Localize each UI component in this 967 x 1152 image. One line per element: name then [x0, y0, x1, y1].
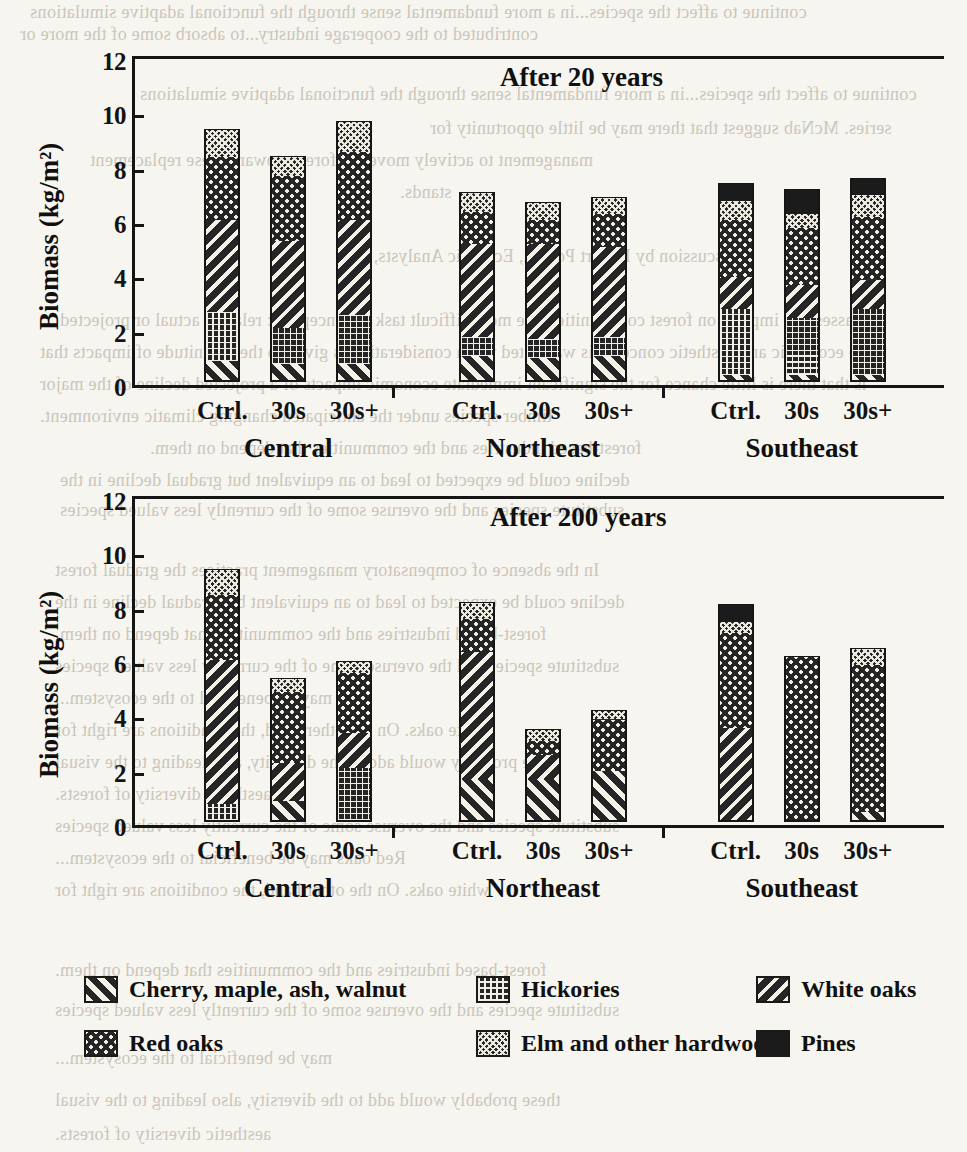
bar-segment-elm [593, 198, 625, 214]
group-label-central: Central [168, 873, 408, 904]
bar-segment-red-oaks [852, 665, 884, 812]
chart200-ytick-10: 10 [102, 542, 135, 570]
bar-central-30s [270, 156, 306, 382]
bar-segment-elm [527, 203, 559, 219]
bar-segment-red-oaks [272, 176, 304, 241]
legend-label-cherry: Cherry, maple, ash, walnut [129, 976, 406, 1003]
group-separator-tick [662, 828, 665, 838]
bar-segment-red-oaks [786, 657, 818, 820]
bar-segment-white-oaks [206, 660, 238, 804]
chart20-ytickmark-4 [135, 278, 144, 281]
bar-segment-white-oaks [527, 244, 559, 339]
xtick-label-northeast-2: 30s+ [564, 837, 654, 865]
bar-segment-hickories [206, 312, 238, 361]
bar-segment-hickories [720, 309, 752, 374]
bar-segment-cherry [593, 356, 625, 380]
chart-after-200-years: Biomass (kg/m²) After 200 years 02468101… [0, 440, 967, 880]
bar-segment-red-oaks [852, 217, 884, 279]
chart20-ytickmark-10 [135, 115, 144, 118]
chart200-ytick-4: 4 [114, 705, 135, 733]
bar-segment-hickories [527, 339, 559, 358]
bar-segment-cherry [206, 361, 238, 380]
legend-label-white-oaks: White oaks [801, 976, 916, 1003]
chart20-ytickmark-2 [135, 333, 144, 336]
bar-southeast-30s [784, 656, 820, 822]
bar-central-30s [270, 678, 306, 822]
bar-segment-red-oaks [720, 220, 752, 277]
bar-northeast-30s+ [591, 710, 627, 822]
bar-segment-hickories [461, 337, 493, 356]
legend-item-elm: Elm and other hardwoods [476, 1030, 788, 1057]
bar-southeast-ctrl [718, 183, 754, 382]
chart-200-plot-area: 024681012Ctrl.30s30s+CentralCtrl.30s30s+… [132, 496, 944, 828]
group-separator-tick [392, 388, 395, 398]
bar-segment-white-oaks [461, 244, 493, 336]
bar-segment-white-oaks [338, 220, 370, 315]
bar-segment-elm [461, 603, 493, 619]
bar-segment-cherry [593, 771, 625, 820]
figure-legend: Cherry, maple, ash, walnut Hickories Whi… [84, 968, 936, 1080]
bar-segment-red-oaks [593, 214, 625, 247]
bar-segment-red-oaks [461, 212, 493, 245]
bar-segment-cherry [786, 375, 818, 380]
bar-segment-red-oaks [206, 157, 238, 219]
bar-segment-white-oaks [527, 755, 559, 779]
legend-label-red-oaks: Red oaks [129, 1030, 223, 1057]
bar-segment-hickories [338, 768, 370, 820]
bar-segment-elm [272, 679, 304, 693]
bar-segment-red-oaks [338, 673, 370, 733]
legend-item-red-oaks: Red oaks [84, 1030, 223, 1057]
chart200-ytickmark-10 [135, 555, 144, 558]
bar-segment-white-oaks [593, 247, 625, 337]
bar-segment-elm [593, 711, 625, 719]
bar-central-ctrl [204, 569, 240, 822]
legend-swatch-white-oaks-icon [756, 976, 790, 1003]
chart-200-y-axis-label: Biomass (kg/m²) [34, 591, 65, 778]
bar-northeast-30s+ [591, 197, 627, 382]
chart20-ytickmark-8 [135, 170, 144, 173]
bar-segment-cherry [852, 375, 884, 380]
legend-label-elm: Elm and other hardwoods [521, 1030, 788, 1057]
bar-segment-elm [338, 662, 370, 673]
bar-segment-elm [272, 157, 304, 176]
chart20-ytickmark-6 [135, 224, 144, 227]
xtick-label-southeast-2: 30s+ [823, 397, 913, 425]
chart200-ytick-6: 6 [114, 651, 135, 679]
legend-label-hickories: Hickories [521, 976, 620, 1003]
chart20-ytick-12: 12 [102, 48, 135, 76]
chart20-ytick-8: 8 [114, 157, 135, 185]
bar-segment-hickories [786, 318, 818, 375]
bar-segment-red-oaks [461, 619, 493, 652]
bar-southeast-30s+ [850, 648, 886, 822]
bar-segment-cherry [272, 364, 304, 380]
bar-segment-white-oaks [720, 277, 752, 310]
chart-20-plot-area: 024681012Ctrl.30s30s+CentralCtrl.30s30s+… [132, 56, 944, 388]
bar-segment-white-oaks [786, 285, 818, 318]
bar-segment-red-oaks [527, 741, 559, 755]
bar-segment-cherry [272, 801, 304, 820]
chart200-ytickmark-2 [135, 773, 144, 776]
bar-segment-red-oaks [720, 633, 752, 728]
legend-swatch-elm-icon [476, 1030, 510, 1057]
bar-segment-elm [338, 122, 370, 152]
bar-segment-hickories [272, 328, 304, 363]
xtick-label-central-2: 30s+ [309, 397, 399, 425]
chart200-ytickmark-6 [135, 664, 144, 667]
chart200-ytick-12: 12 [102, 488, 135, 516]
bar-segment-red-oaks [786, 228, 818, 285]
bar-segment-red-oaks [338, 152, 370, 220]
bar-segment-elm [461, 193, 493, 212]
bar-segment-pines [852, 179, 884, 195]
group-separator-tick [662, 388, 665, 398]
bar-segment-hickories [206, 804, 238, 820]
legend-item-cherry: Cherry, maple, ash, walnut [84, 976, 406, 1003]
bar-segment-hickories [593, 337, 625, 356]
bleed-line: these probably would add to the diversit… [55, 1090, 560, 1111]
legend-swatch-pines-icon [756, 1030, 790, 1057]
xtick-label-northeast-2: 30s+ [564, 397, 654, 425]
bar-segment-red-oaks [206, 595, 238, 660]
chart20-ytick-10: 10 [102, 102, 135, 130]
legend-label-pines: Pines [801, 1030, 856, 1057]
group-label-southeast: Southeast [682, 873, 922, 904]
bar-southeast-ctrl [718, 604, 754, 822]
